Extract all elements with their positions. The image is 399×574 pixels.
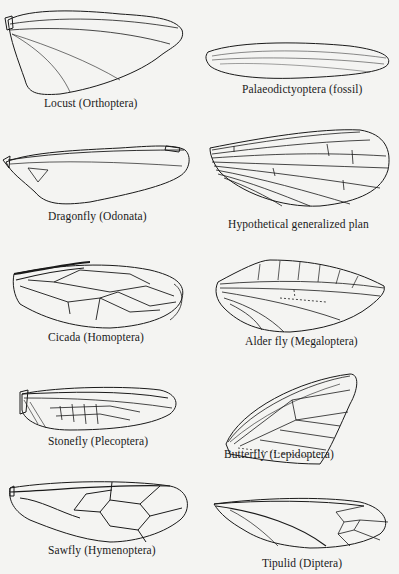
label-cicada: Cicada (Homoptera) [48, 331, 144, 343]
panel-alderfly: Alder fly (Megaloptera) [200, 240, 399, 360]
panel-dragonfly: Dragonfly (Odonata) [0, 120, 200, 240]
dragonfly-wing-drawing [0, 120, 200, 240]
panel-locust: Locust (Orthoptera) [0, 0, 200, 120]
label-hypothetical: Hypothetical generalized plan [228, 218, 369, 230]
label-butterfly: Butterfly (Lepidoptera) [224, 448, 334, 460]
panel-tipulid: Tipulid (Diptera) [200, 460, 399, 574]
sawfly-wing-drawing [0, 460, 200, 574]
panel-butterfly: Butterfly (Lepidoptera) [200, 360, 399, 470]
label-alderfly: Alder fly (Megaloptera) [245, 335, 358, 347]
panel-cicada: Cicada (Homoptera) [0, 240, 200, 360]
label-sawfly: Sawfly (Hymenoptera) [48, 544, 156, 556]
panel-palaeodictyoptera: Palaeodictyoptera (fossil) [200, 0, 399, 120]
label-stonefly: Stonefly (Plecoptera) [48, 435, 148, 447]
panel-stonefly: Stonefly (Plecoptera) [0, 360, 200, 460]
label-dragonfly: Dragonfly (Odonata) [48, 210, 147, 222]
panel-sawfly: Sawfly (Hymenoptera) [0, 460, 200, 574]
label-palaeodictyoptera: Palaeodictyoptera (fossil) [242, 83, 362, 95]
label-locust: Locust (Orthoptera) [44, 97, 138, 109]
panel-hypothetical: Hypothetical generalized plan [200, 120, 399, 240]
palaeodictyoptera-wing-drawing [200, 0, 399, 120]
label-tipulid: Tipulid (Diptera) [262, 557, 342, 569]
